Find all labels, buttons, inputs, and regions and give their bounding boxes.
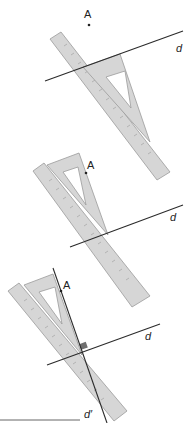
set-square (83, 54, 150, 142)
construction-diagram: d A d A (0, 0, 194, 423)
line-d-label: d (145, 330, 152, 342)
line-d-label: d (170, 211, 177, 223)
point-a (60, 290, 63, 293)
point-a (85, 172, 88, 175)
point-a-label: A (63, 279, 71, 291)
ruler (8, 283, 127, 421)
point-a-label: A (87, 159, 95, 171)
line-d-label: d (176, 42, 183, 54)
point-a (88, 24, 91, 27)
point-a-label: A (84, 8, 92, 20)
step-1: d A (45, 8, 183, 180)
line-d-prime-label: d′ (84, 408, 93, 420)
